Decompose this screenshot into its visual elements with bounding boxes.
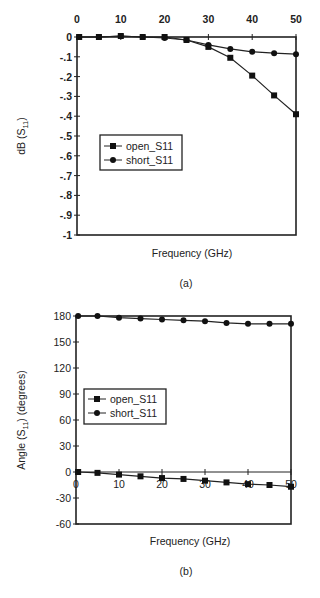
data-point — [95, 313, 101, 319]
y-tick-label: 120 — [53, 362, 71, 374]
data-point — [116, 315, 122, 321]
data-point — [245, 481, 251, 487]
x-tick-label: 0 — [73, 478, 79, 490]
data-point — [267, 482, 273, 488]
x-tick-label: 20 — [159, 13, 171, 25]
chart-b-legend: open_S11 short_S11 — [84, 389, 166, 424]
data-point — [116, 472, 122, 478]
y-tick-label: -.2 — [60, 71, 72, 83]
x-tick-label: 40 — [246, 13, 258, 25]
data-point — [288, 484, 294, 490]
x-tick-label: 0 — [74, 13, 80, 25]
y-tick-label: -.6 — [60, 150, 72, 162]
data-point — [138, 473, 144, 479]
legend-short-s11: short_S11 — [126, 154, 173, 166]
chart-a-caption: (a) — [180, 277, 193, 289]
chart-a-y-axis-label: dB (S11) — [15, 117, 30, 155]
data-point — [75, 313, 81, 319]
data-point — [159, 475, 165, 481]
legend-short-s11: short_S11 — [110, 407, 157, 419]
data-point — [138, 316, 144, 322]
data-point — [96, 34, 102, 40]
legend-open-s11: open_S11 — [126, 140, 173, 152]
data-point — [162, 35, 168, 41]
y-tick-label: -30 — [56, 492, 71, 504]
y-tick-label: 0 — [65, 466, 71, 478]
x-tick-label: 30 — [203, 13, 215, 25]
data-point — [181, 476, 187, 482]
data-point — [227, 55, 233, 61]
data-point — [118, 33, 124, 39]
y-tick-label: 180 — [53, 310, 71, 322]
x-tick-label: 50 — [290, 13, 302, 25]
y-tick-label: -.3 — [60, 90, 72, 102]
y-tick-label: -.7 — [60, 170, 72, 182]
y-tick-label: -.1 — [60, 51, 72, 63]
data-point — [288, 321, 294, 327]
y-tick-label: -.5 — [60, 130, 72, 142]
data-point — [95, 470, 101, 476]
data-point — [181, 317, 187, 323]
data-point — [224, 479, 230, 485]
y-tick-label: 0 — [66, 31, 72, 43]
figure: 01020304050 0-.1-.2-.3-.4-.5-.6-.7-.8-.9… — [0, 0, 320, 598]
y-tick-label: -.8 — [60, 189, 72, 201]
legend-open-s11: open_S11 — [110, 393, 157, 405]
data-point — [227, 46, 233, 52]
y-tick-label: -.4 — [60, 110, 72, 122]
data-point — [202, 318, 208, 324]
data-point — [293, 51, 299, 57]
data-point — [202, 478, 208, 484]
data-point — [75, 469, 81, 475]
chart-b-caption: (b) — [180, 565, 193, 577]
y-tick-label: 90 — [59, 388, 71, 400]
data-point — [249, 49, 255, 55]
y-tick-label: -.9 — [60, 209, 72, 221]
data-point — [184, 37, 190, 43]
data-point — [159, 316, 165, 322]
chart-a-x-ticks: 01020304050 — [74, 13, 302, 40]
data-point — [249, 73, 255, 79]
x-tick-label: 10 — [115, 13, 127, 25]
chart-a-legend: open_S11 short_S11 — [100, 135, 182, 170]
series-short-s11 — [75, 313, 294, 327]
data-point — [245, 321, 251, 327]
data-point — [76, 34, 82, 40]
data-point — [293, 111, 299, 117]
data-point — [140, 34, 146, 40]
chart-b: 1801501209060300-30-60 01020304050 Angle… — [15, 310, 297, 577]
data-point — [205, 42, 211, 48]
series-open-s11 — [76, 33, 299, 117]
data-point — [271, 50, 277, 56]
y-tick-label: 150 — [53, 336, 71, 348]
x-tick-label: 10 — [113, 478, 125, 490]
y-tick-label: -60 — [56, 518, 71, 530]
chart-b-x-axis-label: Frequency (GHz) — [150, 535, 231, 547]
chart-b-y-ticks: 1801501209060300-30-60 — [53, 310, 79, 530]
y-tick-label: 30 — [59, 440, 71, 452]
chart-a-x-axis-label: Frequency (GHz) — [152, 247, 233, 259]
y-tick-label: 60 — [59, 414, 71, 426]
data-point — [224, 320, 230, 326]
chart-a-series — [76, 33, 299, 117]
chart-a: 01020304050 0-.1-.2-.3-.4-.5-.6-.7-.8-.9… — [15, 13, 302, 289]
data-point — [267, 321, 273, 327]
data-point — [271, 92, 277, 98]
y-tick-label: -1 — [63, 229, 72, 241]
chart-b-y-axis-label: Angle (S11) (degrees) — [15, 370, 30, 469]
